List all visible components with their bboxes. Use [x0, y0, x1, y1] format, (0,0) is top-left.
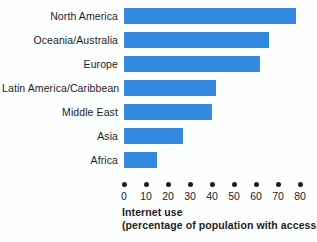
x-tick-label: 30 — [178, 190, 202, 202]
x-tick-dot — [254, 182, 259, 187]
x-tick-label: 10 — [134, 190, 158, 202]
x-axis: 01020304050607080 — [0, 182, 317, 206]
bar-row — [124, 128, 183, 144]
x-axis-title-line2: (percentage of population with access) — [122, 219, 317, 232]
bar-row — [124, 56, 260, 72]
x-tick-label: 50 — [222, 190, 246, 202]
category-label: Africa — [2, 152, 118, 168]
category-label: Latin America/Caribbean — [2, 80, 118, 96]
category-label: Middle East — [2, 104, 118, 120]
bar — [124, 128, 183, 144]
x-tick-dot — [188, 182, 193, 187]
x-tick-label: 20 — [156, 190, 180, 202]
bar-chart: North AmericaOceania/AustraliaEuropeLati… — [0, 0, 317, 242]
category-label: Asia — [2, 128, 118, 144]
bar — [124, 8, 296, 24]
plot-area — [124, 8, 317, 178]
category-axis-labels: North AmericaOceania/AustraliaEuropeLati… — [0, 0, 118, 180]
category-label: Oceania/Australia — [2, 32, 118, 48]
category-label: North America — [2, 8, 118, 24]
x-tick-dot — [232, 182, 237, 187]
bar — [124, 56, 260, 72]
bar-row — [124, 8, 296, 24]
bar — [124, 152, 157, 168]
bar-row — [124, 32, 269, 48]
bar-row — [124, 104, 212, 120]
x-tick-dot — [166, 182, 171, 187]
bar-row — [124, 152, 157, 168]
x-tick-label: 80 — [288, 190, 312, 202]
bar — [124, 32, 269, 48]
x-axis-title-line1: Internet use — [122, 206, 317, 219]
x-tick-label: 40 — [200, 190, 224, 202]
x-tick-dot — [210, 182, 215, 187]
bar — [124, 80, 216, 96]
x-tick-dot — [276, 182, 281, 187]
x-tick-dot — [144, 182, 149, 187]
x-axis-title: Internet use (percentage of population w… — [122, 206, 317, 232]
x-tick-label: 70 — [266, 190, 290, 202]
x-tick-label: 60 — [244, 190, 268, 202]
bar-row — [124, 80, 216, 96]
x-tick-label: 0 — [112, 190, 136, 202]
bar — [124, 104, 212, 120]
x-tick-dot — [298, 182, 303, 187]
x-tick-dot — [122, 182, 127, 187]
category-label: Europe — [2, 56, 118, 72]
